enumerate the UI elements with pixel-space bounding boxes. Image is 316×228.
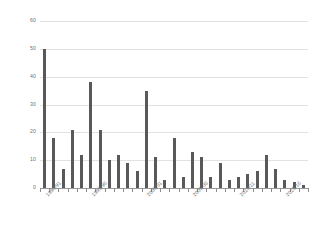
bar (80, 155, 83, 188)
bar (228, 180, 231, 188)
bar (136, 171, 139, 188)
x-axis-tick (253, 188, 254, 192)
y-axis-tick-label: 40 (30, 74, 36, 79)
bar (274, 169, 277, 188)
bar (43, 49, 46, 188)
x-axis-tick (299, 188, 300, 192)
x-axis-tick (216, 188, 217, 192)
x-axis-tick (280, 188, 281, 192)
bar (191, 152, 194, 188)
x-axis-tick (58, 188, 59, 192)
y-axis-tick-label: 10 (30, 158, 36, 163)
bar (89, 82, 92, 188)
bar (283, 180, 286, 188)
x-axis-tick (234, 188, 235, 192)
x-axis-ticks (40, 188, 308, 193)
x-axis-tick (225, 188, 226, 192)
x-axis-tick (68, 188, 69, 192)
bar (256, 171, 259, 188)
x-axis-tick (142, 188, 143, 192)
bar (99, 130, 102, 188)
y-axis-tick-label: 0 (33, 185, 36, 190)
bar (163, 180, 166, 188)
x-axis-tick (40, 188, 41, 192)
bar (71, 130, 74, 188)
bar (173, 138, 176, 188)
bar (52, 138, 55, 188)
bar (145, 91, 148, 188)
x-axis-tick (160, 188, 161, 192)
y-axis-tick-label: 20 (30, 130, 36, 135)
x-axis-tick-labels: 1990/911995/962000/012005/062010/112015/… (0, 0, 316, 40)
bar (209, 177, 212, 188)
bar (117, 155, 120, 188)
y-axis-tick-label: 50 (30, 46, 36, 51)
bar (265, 155, 268, 188)
bar (126, 163, 129, 188)
x-axis-tick (114, 188, 115, 192)
x-axis-tick (179, 188, 180, 192)
bar-series (40, 21, 308, 188)
plot-area (40, 21, 308, 188)
x-axis-tick (123, 188, 124, 192)
x-axis-tick (262, 188, 263, 192)
bar (62, 169, 65, 188)
x-axis-tick (105, 188, 106, 192)
x-axis-tick (308, 188, 309, 192)
x-axis-tick (86, 188, 87, 192)
x-axis-tick (132, 188, 133, 192)
x-axis-tick (206, 188, 207, 192)
x-axis-tick (188, 188, 189, 192)
x-axis-tick (271, 188, 272, 192)
bar (182, 177, 185, 188)
bar (237, 177, 240, 188)
bar (219, 163, 222, 188)
y-axis-tick-label: 30 (30, 102, 36, 107)
bar-chart: 0102030405060 Numbers of birds 1990/9119… (0, 0, 316, 228)
x-axis-tick (169, 188, 170, 192)
x-axis-tick (77, 188, 78, 192)
